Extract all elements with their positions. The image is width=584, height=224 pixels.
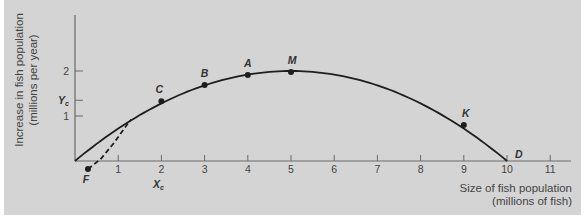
x-tick-label: 5 [288,163,294,175]
y-axis-label-line: (millions per year) [27,34,39,126]
x-axis-label-line: Size of fish population [459,182,572,194]
point-label-k: K [462,107,471,119]
point-label-m: M [288,54,297,66]
point-label-b: B [201,67,209,79]
y-axis-label: Increase in fish population(millions per… [13,13,39,147]
point-label-c: C [156,83,164,95]
growth-curve [75,71,507,161]
x-tick-label: 9 [461,163,467,175]
point-label-f: F [83,173,90,185]
point-m [288,69,294,75]
annotations: Xc [152,178,164,191]
y-tick-label: 1 [63,110,69,122]
point-k [461,122,467,128]
x-tick-label: 6 [331,163,337,175]
xc-label: Xc [152,178,164,191]
point-c [158,98,164,104]
x-tick-label: 10 [501,163,513,175]
x-tick-label: 1 [115,163,121,175]
point-b [202,82,208,88]
data-points: FCBAMKD [83,54,523,185]
series [75,71,507,169]
x-axis-label-line: (millions of fish) [492,195,572,207]
critical-depensation-curve [88,120,131,170]
y-tick-label: Yc [58,94,69,107]
subscript: c [65,100,69,107]
x-tick-label: 11 [545,163,556,175]
fish-population-growth-chart: Increase in fish population(millions per… [0,0,584,224]
point-label-a: A [243,57,252,69]
point-a [245,72,251,78]
x-tick-label: 2 [158,163,164,175]
x-tick-label: 4 [245,163,251,175]
x-tick-label: 7 [374,163,380,175]
x-tick-label: 3 [202,163,208,175]
y-tick-label: 2 [63,65,69,77]
subscript: c [160,184,164,191]
point-label-d: D [515,148,523,160]
axes [75,15,571,161]
x-axis-label: Size of fish population(millions of fish… [459,182,572,207]
x-tick-label: 8 [418,163,424,175]
point-f [85,166,91,172]
y-axis-label-line: Increase in fish population [13,13,25,147]
